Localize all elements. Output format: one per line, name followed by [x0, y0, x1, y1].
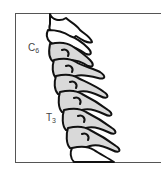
label-c6: C6 — [28, 43, 39, 54]
spine-illustration — [0, 0, 161, 175]
label-t3: T3 — [46, 113, 56, 124]
